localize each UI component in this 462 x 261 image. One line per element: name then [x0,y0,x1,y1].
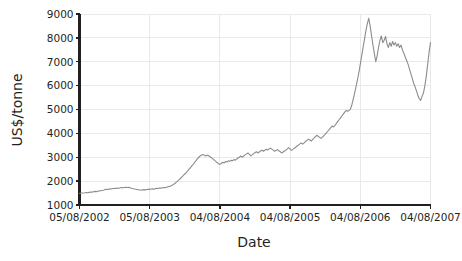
y-tick-label: 6000 [47,79,74,91]
x-tick-label: 05/08/2002 [49,211,110,223]
x-tick-label: 04/08/2006 [330,211,391,223]
y-tick-label: 7000 [47,56,74,68]
x-tick-label: 04/08/2005 [260,211,321,223]
y-tick-label: 3000 [47,151,74,163]
x-tick-label: 05/08/2003 [119,211,180,223]
y-tick-label: 1000 [47,199,74,211]
y-tick-label: 9000 [47,8,74,20]
y-axis-title: US$/tonne [9,73,25,146]
y-tick-label: 8000 [47,32,74,44]
x-axis-title: Date [237,234,270,250]
x-tick-label: 04/08/2004 [190,211,251,223]
x-tick-label: 04/08/2007 [400,211,461,223]
y-tick-label: 4000 [47,127,74,139]
y-tick-label: 2000 [47,175,74,187]
chart-figure: 100020003000400050006000700080009000 05/… [0,0,462,261]
line-chart: 100020003000400050006000700080009000 05/… [0,0,462,261]
x-tick-labels: 05/08/200205/08/200304/08/200404/08/2005… [49,211,461,223]
y-tick-label: 5000 [47,103,74,115]
y-tick-labels: 100020003000400050006000700080009000 [47,8,74,211]
